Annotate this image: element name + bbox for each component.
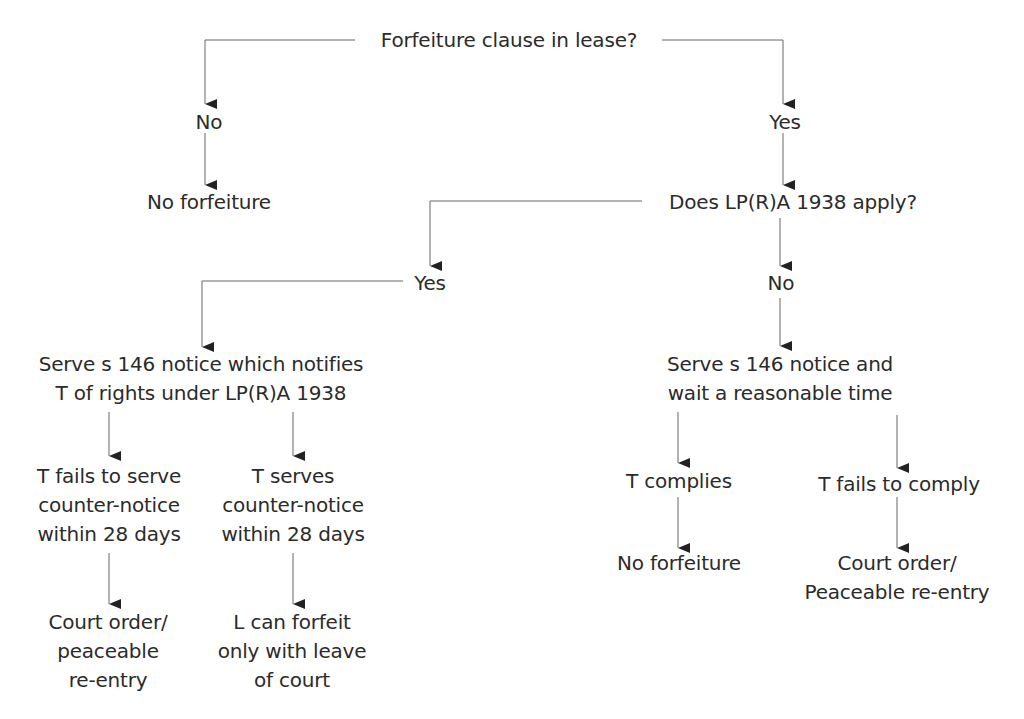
edge-root-no — [205, 40, 355, 104]
result-fails-counter-line-1: Court order/ — [49, 608, 168, 637]
node-leave-of-court: L can forfeit only with leave of court — [218, 608, 367, 695]
t-serves-counter-line-2: counter-notice — [221, 491, 364, 520]
node-root-question: Forfeiture clause in lease? — [381, 26, 637, 55]
node-no-forfeiture-complies: No forfeiture — [617, 549, 741, 578]
result-serves-counter-line-2: only with leave — [218, 637, 367, 666]
result-fails-counter-line-3: re-entry — [49, 666, 168, 695]
node-no-clause: No — [196, 108, 223, 137]
node-yes-clause: Yes — [769, 108, 801, 137]
node-lpra-yes: Yes — [414, 269, 446, 298]
node-lpra-question: Does LP(R)A 1938 apply? — [669, 188, 917, 217]
result-serves-counter-line-3: of court — [218, 666, 367, 695]
node-t-complies: T complies — [626, 467, 732, 496]
t-fails-counter-line-3: within 28 days — [37, 520, 181, 549]
node-no-forfeiture: No forfeiture — [147, 188, 271, 217]
edge-root-yes — [662, 40, 783, 104]
notice-lpra-line-2: T of rights under LP(R)A 1938 — [39, 379, 364, 408]
result-fails-counter-line-2: peaceable — [49, 637, 168, 666]
node-t-fails-comply: T fails to comply — [818, 470, 980, 499]
result-fails-comply-line-1: Court order/ — [805, 549, 990, 578]
node-lpra-no: No — [768, 269, 795, 298]
t-fails-counter-line-2: counter-notice — [37, 491, 181, 520]
node-t-serves-counter: T serves counter-notice within 28 days — [221, 462, 364, 549]
node-court-order-reentry: Court order/ Peaceable re-entry — [805, 549, 990, 607]
t-serves-counter-line-3: within 28 days — [221, 520, 364, 549]
t-fails-counter-line-1: T fails to serve — [37, 462, 181, 491]
node-serve-notice-wait: Serve s 146 notice and wait a reasonable… — [667, 350, 893, 408]
t-serves-counter-line-1: T serves — [221, 462, 364, 491]
result-serves-counter-line-1: L can forfeit — [218, 608, 367, 637]
notice-lpra-line-1: Serve s 146 notice which notifies — [39, 350, 364, 379]
result-fails-comply-line-2: Peaceable re-entry — [805, 578, 990, 607]
edge-lpra-yes — [430, 201, 642, 266]
node-serve-notice-lpra: Serve s 146 notice which notifies T of r… — [39, 350, 364, 408]
notice-wait-line-1: Serve s 146 notice and — [667, 350, 893, 379]
edge-yes-notice — [202, 281, 403, 347]
node-t-fails-counter: T fails to serve counter-notice within 2… — [37, 462, 181, 549]
node-court-order-peaceable: Court order/ peaceable re-entry — [49, 608, 168, 695]
notice-wait-line-2: wait a reasonable time — [667, 379, 893, 408]
